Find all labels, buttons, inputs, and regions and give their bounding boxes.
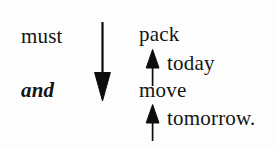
tomorrow-up-arrow-icon [143, 103, 163, 143]
left-word-and: and [21, 80, 54, 101]
right-word-tomorrow: tomorrow. [167, 108, 256, 129]
today-up-arrow-icon [143, 48, 163, 88]
right-word-pack: pack [139, 24, 179, 45]
right-word-today: today [167, 53, 215, 74]
grammar-arrow-diagram: must and pack today move tomorrow. [0, 0, 278, 147]
left-word-must: must [21, 26, 63, 47]
main-down-arrow-icon [92, 20, 114, 104]
